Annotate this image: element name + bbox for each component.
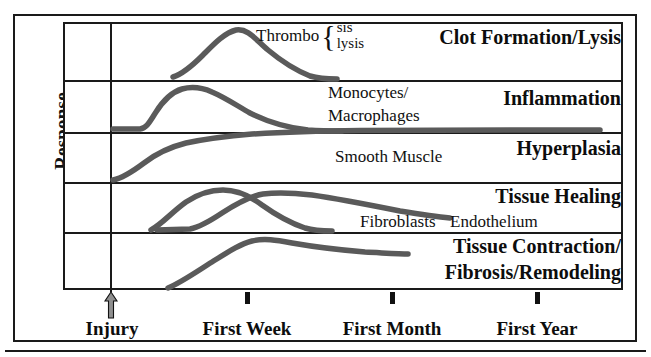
time-label-first-week: First Week [182,318,312,340]
axis-tick-first-year [535,292,540,304]
curve-tissue-contraction [168,240,408,288]
injury-arrow-icon [104,292,118,318]
axis-tick-first-week [245,292,250,304]
time-label-first-month: First Month [327,318,457,340]
time-label-first-year: First Year [477,318,597,340]
figure-bottom-rule [5,350,646,352]
band-title-fibrosis-remodeling: Fibrosis/Remodeling [445,262,621,282]
figure-root: Response Thrombo { sis lysis Clot Format… [0,0,651,357]
time-label-injury: Injury [62,318,162,340]
band-title-tissue-contraction: Tissue Contraction/ [453,236,621,256]
curve-layer-tissue-contraction [0,0,651,357]
axis-tick-first-month [390,292,395,304]
